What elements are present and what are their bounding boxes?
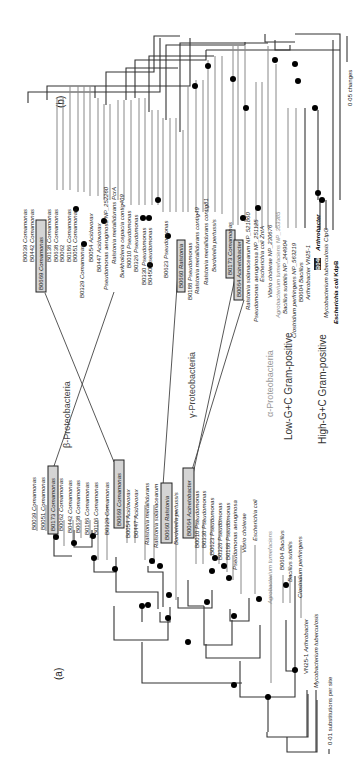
svg-text:B0173 Comamonas: B0173 Comamonas [50,478,56,531]
tree-correspondence-lines [45,272,244,507]
svg-text:B0330 Pseudomonas: B0330 Pseudomonas [201,491,207,548]
svg-text:Pseudomonas aeruginosa: Pseudomonas aeruginosa [232,500,238,570]
svg-text:B0054 Acidovorax: B0054 Acidovorax [88,212,94,262]
svg-text:B0450 Pseudomonas: B0450 Pseudomonas [147,228,153,285]
svg-text:B0064 Acinetobacter: B0064 Acinetobacter [236,240,242,297]
group-alpha-proteobacteria: α-Proteobacteria [265,350,275,417]
svg-text:Ralstonia solanacearum: Ralstonia solanacearum [153,484,159,548]
svg-text:B0054 Acidovorax: B0054 Acidovorax [125,488,131,538]
svg-text:Escherichia coli KdpB: Escherichia coli KdpB [333,260,339,324]
svg-text:B0638 Comamonas: B0638 Comamonas [75,480,81,533]
svg-text:B0400 Arthrobacter: B0400 Arthrobacter [315,214,321,270]
svg-text:B0604 Bacillus: B0604 Bacillus [279,530,285,570]
scale-b-label: 0·05 changes [347,70,353,106]
svg-text:B0442 Comamonas: B0442 Comamonas [29,209,35,262]
svg-text:B0442 Comamonas: B0442 Comamonas [67,480,73,533]
svg-text:Agrobacterium tumefaciens: Agrobacterium tumefaciens [267,531,273,605]
svg-text:Clostridium perfringens: Clostridium perfringens [297,536,303,598]
svg-text:Pseudomonas aeruginosa NP_2522: Pseudomonas aeruginosa NP_252260 [103,186,109,290]
svg-text:B0173 Comamonas: B0173 Comamonas [227,222,233,275]
svg-text:VN25-1 Arthrobacter: VN25-1 Arthrobacter [303,618,309,674]
svg-text:Vibrio cholerae: Vibrio cholerae [241,512,247,553]
svg-text:Agrobacterium tumefaciens NP_3: Agrobacterium tumefaciens NP_353385 [275,211,281,319]
svg-text:B0660 Ralstonia: B0660 Ralstonia [164,495,170,540]
svg-text:B0326 Pseudomonas: B0326 Pseudomonas [217,503,223,560]
svg-text:B0623 Pseudomonas: B0623 Pseudomonas [209,498,215,555]
svg-text:Escherichia coli: Escherichia coli [252,499,258,541]
scale-bar-a: 0·01 substitutions per site [327,676,333,754]
svg-text:Bacillus subtilis: Bacillus subtilis [287,541,293,582]
svg-text:B0010 Pseudomonas: B0010 Pseudomonas [126,211,132,268]
svg-text:B0186 Comamonas: B0186 Comamonas [84,482,90,535]
panel-a-label: (a) [53,668,64,680]
svg-text:Burkholderia cepacia contig409: Burkholderia cepacia contig409 [119,194,125,278]
svg-text:Bacillus subtilis NP_244904: Bacillus subtilis NP_244904 [282,239,288,314]
tree-b-labels: B0039 Comamonas B0442 Comamonas B0669 Co… [22,186,339,338]
svg-text:B0051 Comamonas: B0051 Comamonas [40,477,46,530]
svg-text:B0039 Comamonas: B0039 Comamonas [31,477,37,530]
svg-text:B0039 Comamonas: B0039 Comamonas [22,209,28,262]
svg-text:B0669 Comamonas: B0669 Comamonas [116,473,122,526]
svg-text:B0669 Comamonas: B0669 Comamonas [38,237,44,290]
svg-text:Ralstonia metallidurans PcrA: Ralstonia metallidurans PcrA [111,187,117,264]
svg-text:B0329 Comamonas: B0329 Comamonas [79,245,85,298]
svg-text:B0447 Acidovorax: B0447 Acidovorax [133,488,139,538]
svg-text:Vibrio cholerae NP_230676: Vibrio cholerae NP_230676 [267,224,273,298]
svg-text:B0188 Pseudomonas: B0188 Pseudomonas [187,243,193,300]
svg-text:Ralstonia solanacearum NP_5218: Ralstonia solanacearum NP_521860 [245,212,251,310]
svg-text:Mycobacterium tuberculosis Ctp: Mycobacterium tuberculosis CtpG [323,228,329,318]
svg-text:Bordetella pertussis: Bordetella pertussis [173,492,179,545]
svg-text:Arthrobacter VN25-1: Arthrobacter VN25-1 [305,245,311,301]
svg-text:Ralstonia metallidurans: Ralstonia metallidurans [144,483,150,545]
svg-text:B0062 Comamonas: B0062 Comamonas [58,478,64,531]
svg-text:Escherichia coli ZntA: Escherichia coli ZntA [259,226,265,282]
svg-text:Clostridium perfringens NP_563: Clostridium perfringens NP_563219 [291,242,297,338]
svg-text:Bordetella pertussis: Bordetella pertussis [211,219,217,272]
tree-a-labels: B0039 Comamonas B0051 Comamonas B0173 Co… [31,473,319,688]
group-gamma-proteobacteria: γ-Proteobacteria [187,352,197,418]
phylogenetic-figure: (b) (a) 0·05 changes 0·01 substitutions … [0,0,358,779]
group-high-gc-gram-positive: High-G+C Gram-positive [317,334,328,444]
svg-text:B0051 Comamonas: B0051 Comamonas [72,209,78,262]
svg-text:B0604 Bacillus: B0604 Bacillus [298,262,304,302]
svg-text:B0326 Pseudomonas: B0326 Pseudomonas [133,215,139,272]
scale-a-label: 0·01 substitutions per site [327,676,333,745]
svg-text:B0447 Acidovorax: B0447 Acidovorax [96,222,102,272]
group-low-gc-gram-positive: Low-G+C Gram-positive [283,332,294,440]
svg-text:Mycobacterium tuberculosis: Mycobacterium tuberculosis [313,614,319,688]
svg-text:Ralstonia metallidurans contig: Ralstonia metallidurans contig81 [203,198,209,285]
svg-text:B0106 Comamonas: B0106 Comamonas [93,482,99,535]
scale-bar-b: 0·05 changes [347,36,353,106]
svg-text:B0188 Pseudomonas: B0188 Pseudomonas [225,503,231,560]
svg-text:B0623 Pseudomonas: B0623 Pseudomonas [163,221,169,278]
svg-text:B0138 Comamonas: B0138 Comamonas [46,209,52,262]
svg-text:B0660 Ralstonia: B0660 Ralstonia [178,243,184,288]
svg-text:B0329 Comamonas: B0329 Comamonas [104,482,110,535]
svg-text:B0010 Pseudomonas: B0010 Pseudomonas [194,491,200,548]
svg-text:Ralstonia metallidurans contig: Ralstonia metallidurans contig49 [194,207,200,294]
svg-text:B0062: B0062 [59,244,65,262]
svg-text:B0064 Acinetobacter: B0064 Acinetobacter [186,479,192,536]
